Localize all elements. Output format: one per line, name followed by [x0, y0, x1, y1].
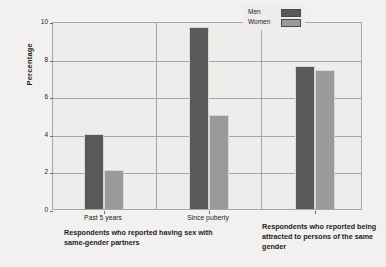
bar-women-0	[104, 170, 124, 209]
chart-figure: Percentage 1086420 Past 5 yearsSince pub…	[0, 0, 386, 267]
legend-item: Men	[248, 8, 301, 17]
y-axis-tick-label: 8	[0, 56, 48, 63]
legend-item-label: Men	[248, 9, 276, 16]
bar-women-2	[315, 70, 335, 209]
x-axis-group-label: Since puberty	[168, 214, 248, 221]
bar-men-1	[189, 27, 209, 209]
y-axis-title: Percentage	[25, 72, 34, 86]
y-axis-tick-label: 4	[0, 132, 48, 139]
legend-swatch-women	[281, 19, 301, 27]
panel-divider	[261, 23, 262, 209]
y-axis-tick-mark	[50, 61, 53, 62]
bar-men-0	[84, 134, 104, 209]
legend-item-label: Women	[248, 19, 276, 26]
y-axis-tick-mark	[50, 98, 53, 99]
chart-legend: MenWomen	[243, 5, 305, 30]
panel-divider	[156, 23, 157, 209]
bar-women-1	[209, 115, 229, 209]
y-axis-tick-mark	[50, 23, 53, 24]
y-axis-tick-label: 0	[0, 207, 48, 214]
caption-right: Respondents who reported being attracted…	[262, 222, 384, 252]
caption-left: Respondents who reported having sex with…	[64, 228, 224, 248]
x-axis-group-label: Past 5 years	[63, 214, 143, 221]
y-axis-tick-mark	[50, 211, 53, 212]
legend-swatch-men	[281, 9, 301, 17]
y-axis-tick-label: 10	[0, 19, 48, 26]
plot-area	[52, 22, 362, 210]
y-axis-tick-label: 6	[0, 94, 48, 101]
legend-item: Women	[248, 18, 301, 27]
bar-men-2	[295, 66, 315, 209]
y-axis-tick-label: 2	[0, 169, 48, 176]
y-axis-tick-mark	[50, 173, 53, 174]
y-axis-tick-mark	[50, 136, 53, 137]
x-axis-tick-mark	[315, 211, 316, 214]
